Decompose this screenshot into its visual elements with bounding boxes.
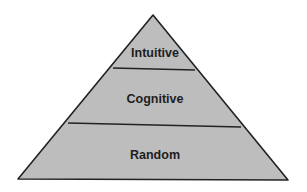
pyramid-diagram: Intuitive Cognitive Random bbox=[0, 0, 307, 192]
level-label-top: Intuitive bbox=[131, 46, 179, 60]
level-label-middle: Cognitive bbox=[127, 92, 184, 106]
level-label-bottom: Random bbox=[130, 148, 180, 162]
